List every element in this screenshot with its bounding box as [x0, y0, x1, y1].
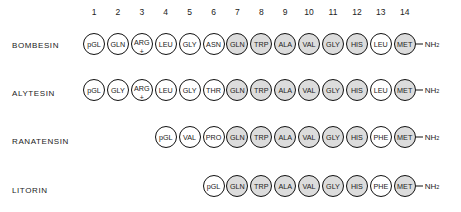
residue-circle: GLY	[179, 79, 201, 101]
bond-line-icon	[416, 185, 423, 186]
residue-label: ALA	[278, 133, 292, 142]
residue-circle: HIS	[346, 33, 368, 55]
residue-circle: GLN	[226, 175, 248, 197]
residue-circle: GLN	[107, 33, 129, 55]
residue-circle: VAL	[298, 175, 320, 197]
positive-charge-icon: +	[132, 48, 152, 55]
residue-label: pGL	[87, 86, 101, 95]
residue-circle: GLY	[179, 33, 201, 55]
residue-circle: TRP	[250, 79, 272, 101]
terminal-label: NH	[425, 182, 437, 191]
residue-label: MET	[397, 86, 412, 95]
position-number: 14	[393, 7, 417, 17]
residue-label: HIS	[351, 40, 363, 49]
residue-label: VAL	[183, 133, 196, 142]
residue-circle: GLY	[322, 175, 344, 197]
residue-label: GLN	[230, 133, 245, 142]
residue-circle: pGL	[203, 175, 225, 197]
residue-circle: GLY	[322, 33, 344, 55]
residue-label: LEU	[159, 86, 173, 95]
residue-label: GLN	[111, 40, 126, 49]
residue-circle: LEU	[370, 79, 392, 101]
residue-circle: PHE	[370, 175, 392, 197]
residue-label: GLN	[230, 182, 245, 191]
residue-label: THR	[206, 86, 221, 95]
residue-circle: TRP	[250, 33, 272, 55]
residue-circle: ARG+	[131, 33, 153, 55]
residue-circle: ASN	[203, 33, 225, 55]
position-number: 5	[178, 7, 202, 17]
residue-circle: PHE	[370, 126, 392, 148]
residue-circle: LEU	[370, 33, 392, 55]
residue-label: VAL	[303, 86, 316, 95]
residue-label: GLY	[326, 182, 340, 191]
residue-label: ARG	[134, 84, 150, 93]
amide-terminal: NH2	[416, 86, 440, 95]
residue-circle: GLN	[226, 126, 248, 148]
residue-label: ASN	[206, 40, 221, 49]
peptide-name: RANATENSIN	[12, 137, 69, 146]
residue-label: HIS	[351, 182, 363, 191]
terminal-label: NH	[425, 133, 437, 142]
bond-line-icon	[416, 43, 423, 44]
position-number: 11	[321, 7, 345, 17]
residue-label: GLY	[326, 133, 340, 142]
residue-label: ALA	[278, 40, 292, 49]
residue-circle: ALA	[274, 79, 296, 101]
residue-label: pGL	[207, 182, 221, 191]
residue-label: GLY	[183, 86, 197, 95]
residue-circle: pGL	[83, 33, 105, 55]
peptide-name: BOMBESIN	[12, 41, 59, 50]
residue-circle: ALA	[274, 33, 296, 55]
position-number: 7	[225, 7, 249, 17]
residue-circle: VAL	[298, 79, 320, 101]
residue-label: TRP	[254, 40, 268, 49]
residue-label: GLY	[183, 40, 197, 49]
amide-terminal: NH2	[416, 40, 440, 49]
amide-terminal: NH2	[416, 182, 440, 191]
residue-label: ARG	[134, 38, 150, 47]
residue-circle: GLY	[322, 79, 344, 101]
bond-line-icon	[416, 136, 423, 137]
residue-circle: THR	[203, 79, 225, 101]
position-number: 12	[345, 7, 369, 17]
residue-circle: GLY	[322, 126, 344, 148]
residue-label: LEU	[374, 40, 388, 49]
residue-label: pGL	[159, 133, 173, 142]
residue-circle: TRP	[250, 126, 272, 148]
position-number: 2	[106, 7, 130, 17]
terminal-subscript: 2	[436, 183, 439, 189]
residue-label: GLN	[230, 86, 245, 95]
residue-label: TRP	[254, 182, 268, 191]
residue-label: GLY	[111, 86, 125, 95]
residue-label: ALA	[278, 86, 292, 95]
terminal-label: NH	[425, 40, 437, 49]
residue-circle: GLY	[107, 79, 129, 101]
bond-line-icon	[416, 89, 423, 90]
residue-circle: PRO	[203, 126, 225, 148]
residue-circle: VAL	[179, 126, 201, 148]
residue-label: GLY	[326, 86, 340, 95]
residue-circle: ARG+	[131, 79, 153, 101]
residue-circle: HIS	[346, 175, 368, 197]
residue-label: VAL	[303, 182, 316, 191]
residue-label: VAL	[303, 40, 316, 49]
residue-label: PHE	[373, 133, 388, 142]
residue-circle: pGL	[155, 126, 177, 148]
residue-label: MET	[397, 40, 412, 49]
residue-circle: HIS	[346, 79, 368, 101]
residue-circle: VAL	[298, 33, 320, 55]
residue-label: ALA	[278, 182, 292, 191]
position-number: 3	[130, 7, 154, 17]
terminal-subscript: 2	[436, 134, 439, 140]
residue-label: GLY	[326, 40, 340, 49]
residue-label: MET	[397, 182, 412, 191]
amide-terminal: NH2	[416, 133, 440, 142]
position-number: 4	[154, 7, 178, 17]
terminal-label: NH	[425, 86, 437, 95]
residue-circle: TRP	[250, 175, 272, 197]
residue-label: pGL	[87, 40, 101, 49]
peptide-name: ALYTESIN	[12, 89, 55, 98]
position-number: 9	[273, 7, 297, 17]
residue-label: TRP	[254, 86, 268, 95]
